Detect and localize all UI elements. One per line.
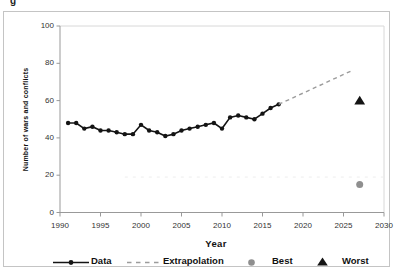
extrapolation-line: [279, 71, 352, 105]
data-point: [82, 126, 86, 130]
data-point: [236, 113, 240, 117]
legend-best-sample: [246, 257, 257, 268]
data-point: [66, 121, 70, 125]
legend: Data Extrapolation Best Worst: [0, 254, 395, 268]
data-point: [155, 130, 159, 134]
legend-label-worst: Worst: [342, 255, 369, 266]
data-point: [90, 125, 94, 129]
legend-worst-sample: [316, 256, 329, 267]
data-point: [268, 106, 272, 110]
data-point: [244, 115, 248, 119]
data-point: [204, 123, 208, 127]
data-point: [98, 128, 102, 132]
data-point: [220, 126, 224, 130]
worst-point: [354, 96, 365, 105]
legend-data-sample: [53, 258, 89, 267]
data-point: [228, 115, 232, 119]
data-point: [115, 130, 119, 134]
data-point: [123, 132, 127, 136]
data-point: [131, 132, 135, 136]
data-point: [179, 128, 183, 132]
chart: [0, 0, 395, 268]
data-point: [139, 123, 143, 127]
data-point: [163, 134, 167, 138]
data-point: [106, 128, 110, 132]
legend-label-data: Data: [91, 255, 112, 266]
best-point: [356, 181, 363, 188]
data-point: [74, 121, 78, 125]
data-point: [171, 132, 175, 136]
data-point: [252, 117, 256, 121]
data-point: [196, 125, 200, 129]
data-point: [147, 128, 151, 132]
legend-label-extrapolation: Extrapolation: [163, 255, 224, 266]
legend-label-best: Best: [272, 255, 293, 266]
data-point: [187, 126, 191, 130]
data-point: [212, 121, 216, 125]
legend-extrapolation-sample: [127, 258, 163, 267]
y-axis-title: Number of wars and conflicts: [22, 25, 33, 215]
data-point: [260, 111, 264, 115]
x-axis-title: Year: [156, 238, 276, 249]
